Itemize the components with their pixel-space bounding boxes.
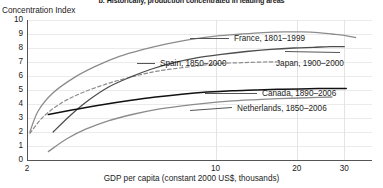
y-tick-label: 7 <box>18 58 23 66</box>
y-tick-label: 2 <box>18 128 23 136</box>
y-tick-label: 0 <box>18 156 23 164</box>
x-tick-label: 2 <box>25 164 30 173</box>
series-annotation-label: France, 1801–1999 <box>234 34 305 43</box>
x-tick-label: 30 <box>340 164 349 173</box>
chart-title: b. Historically, production concentrated… <box>0 0 383 5</box>
series-annotation-label: Spain, 1850–2000 <box>160 59 226 68</box>
x-axis-label: GDP per capita (constant 2000 US$, thous… <box>0 174 383 183</box>
y-tick-label: 6 <box>18 72 23 80</box>
series-line <box>30 32 356 132</box>
x-axis-line <box>27 160 372 161</box>
y-tick-label: 5 <box>18 86 23 94</box>
x-tick-label: 10 <box>211 164 220 173</box>
y-tick-label: 1 <box>18 142 23 150</box>
annotation-leader-line <box>205 93 257 94</box>
plot-area: 012345678910 2102030 France, 1801–1999Sp… <box>27 20 372 160</box>
annotation-leader-line <box>190 38 229 39</box>
series-annotation-label: Netherlands, 1850–2006 <box>237 104 327 113</box>
annotation-leader-line <box>137 63 155 64</box>
y-tick-label: 10 <box>14 16 23 24</box>
x-tick-label: 20 <box>292 164 301 173</box>
chart-figure: b. Historically, production concentrated… <box>0 0 383 188</box>
series-annotation-label: Japan, 1900–2000 <box>276 59 344 68</box>
y-axis-label: Concentration Index <box>2 6 75 15</box>
series-annotation-label: Canada, 1890–2006 <box>262 89 336 98</box>
y-tick-label: 9 <box>18 30 23 38</box>
y-tick-label: 4 <box>18 100 23 108</box>
y-tick-label: 3 <box>18 114 23 122</box>
y-tick-label: 8 <box>18 44 23 52</box>
